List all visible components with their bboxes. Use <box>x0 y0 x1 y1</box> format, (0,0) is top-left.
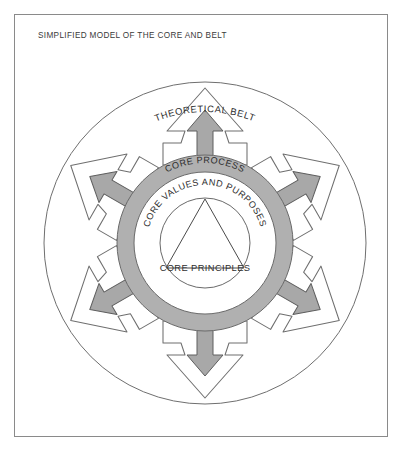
core-principles-label: CORE PRINCIPLES <box>160 263 251 273</box>
core-values-circle <box>160 198 250 288</box>
core-and-belt-diagram: THEORETICAL BELT CORE PROCESS CORE VALUE… <box>0 0 404 454</box>
figure-root: SIMPLIFIED MODEL OF THE CORE AND BELT <box>0 0 404 454</box>
